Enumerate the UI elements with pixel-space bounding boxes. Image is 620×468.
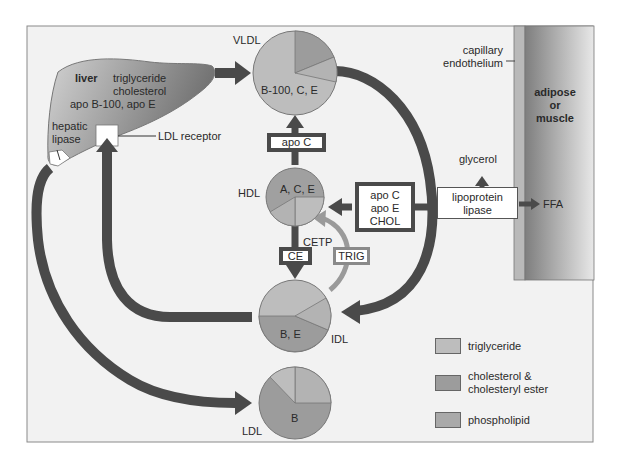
ldl-receptor-label: LDL receptor: [158, 130, 221, 143]
legend-label-phospholipid: phospholipid: [468, 414, 530, 427]
legend-label-triglyceride: triglyceride: [468, 340, 521, 353]
legend-label-cholesterol-2: cholesteryl ester: [468, 383, 548, 396]
glycerol-label: glycerol: [459, 153, 497, 166]
apo-c-label: apo C: [282, 136, 311, 148]
hdl-apos: A, C, E: [280, 183, 315, 196]
transfer-box: apo C apo E CHOL: [355, 182, 415, 232]
tissue-line3: muscle: [525, 112, 585, 125]
ce-box: CE: [279, 247, 312, 265]
ldl-label: LDL: [242, 425, 262, 438]
legend-label-cholesterol-1: cholesterol &: [468, 370, 532, 383]
adipose-muscle-tissue: [525, 26, 594, 280]
legend-swatch-cholesterol: [435, 375, 461, 391]
trig-label: TRIG: [338, 250, 364, 262]
ldl-pie: [259, 367, 331, 439]
hdl-label: HDL: [238, 187, 260, 200]
hdl-pie: [266, 168, 324, 226]
legend-swatch-phospholipid: [435, 412, 461, 428]
transfer-chol: CHOL: [359, 215, 411, 228]
lipoprotein-metabolism-diagram: liver triglyceride cholesterol apo B-100…: [0, 0, 620, 468]
transfer-apo-c: apo C: [359, 189, 411, 202]
vldl-apos: B-100, C, E: [261, 84, 318, 97]
apo-c-box: apo C: [267, 133, 326, 152]
liver-cholesterol: cholesterol: [113, 85, 166, 98]
liver-triglyceride: triglyceride: [113, 72, 166, 85]
idl-label: IDL: [331, 333, 348, 346]
tissue-line1: adipose: [525, 86, 585, 99]
liver-label: liver: [75, 72, 98, 85]
idl-pie: [259, 280, 331, 352]
lpl-line1: lipoprotein: [438, 191, 517, 204]
diagram-canvas: [0, 0, 620, 468]
idl-apos: B, E: [280, 328, 301, 341]
tissue-line2: or: [525, 99, 585, 112]
ce-label: CE: [288, 250, 303, 262]
transfer-apo-e: apo E: [359, 202, 411, 215]
endothelium-label: endothelium: [430, 57, 503, 70]
ffa-label: FFA: [543, 198, 563, 211]
vldl-label: VLDL: [233, 34, 261, 47]
hepatic-lipase-line2: lipase: [52, 133, 81, 146]
vldl-pie: [253, 31, 337, 115]
lpl-line2: lipase: [438, 204, 517, 217]
capillary-endothelium: [514, 26, 525, 280]
liver-apos: apo B-100, apo E: [70, 98, 156, 111]
trig-box: TRIG: [333, 247, 370, 265]
hepatic-lipase-line1: hepatic: [52, 120, 87, 133]
capillary-label: capillary: [440, 44, 503, 57]
lipoprotein-lipase-box: lipoprotein lipase: [437, 187, 518, 219]
legend-swatch-triglyceride: [435, 338, 461, 354]
ldl-apos: B: [291, 412, 298, 425]
